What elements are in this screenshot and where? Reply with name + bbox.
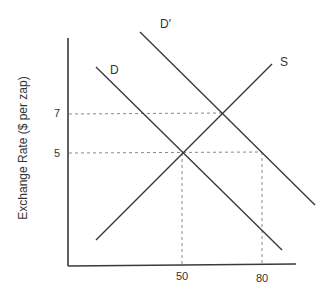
demand-curve-d [96,67,282,250]
guide-rate-7 [69,113,222,114]
exchange-rate-chart: D D′ S 7 5 50 80 Exchange Rate ($ per za… [0,0,332,305]
demand-curve-d-prime [140,32,315,205]
x-tick-80: 80 [256,272,268,284]
curve-label-d-prime: D′ [160,17,172,31]
chart-canvas: D D′ S 7 5 50 80 Exchange Rate ($ per za… [0,0,332,305]
y-axis-title: Exchange Rate ($ per zap) [16,76,30,219]
guide-rate-5 [69,152,262,153]
x-tick-50: 50 [176,270,188,282]
curve-label-s: S [280,55,288,69]
y-tick-7: 7 [54,107,60,119]
y-tick-5: 5 [54,147,60,159]
curve-label-d: D [110,63,119,77]
